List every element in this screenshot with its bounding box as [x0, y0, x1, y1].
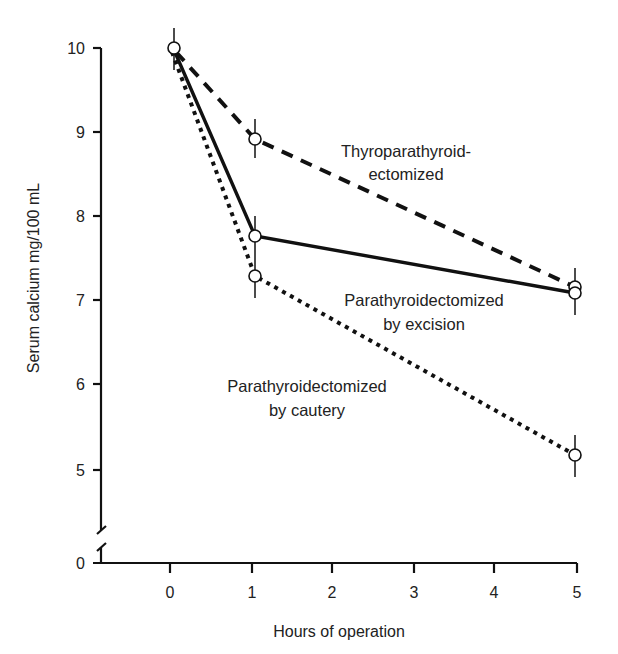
x-tick-labels: 0 1 2 3 4 5: [166, 584, 582, 601]
svg-text:Thyroparathyroid-: Thyroparathyroid-: [341, 142, 471, 160]
data-point: [569, 287, 581, 299]
y-axis: [93, 48, 106, 563]
error-bars: [174, 28, 575, 477]
y-tick-label: 6: [76, 376, 85, 393]
data-point: [249, 230, 261, 242]
data-point: [249, 133, 261, 145]
x-tick-label: 1: [248, 584, 257, 601]
data-point: [168, 42, 180, 54]
annotation-thyroparathyroidectomized: Thyroparathyroid- ectomized: [341, 142, 471, 183]
svg-text:by excision: by excision: [383, 315, 465, 333]
annotation-cautery: Parathyroidectomized by cautery: [227, 377, 387, 419]
data-points: [168, 42, 581, 461]
svg-text:Parathyroidectomized: Parathyroidectomized: [344, 291, 504, 309]
x-tick-label: 2: [328, 584, 337, 601]
x-tick-label: 3: [410, 584, 419, 601]
x-tick-label: 5: [573, 584, 582, 601]
y-tick-label: 10: [67, 40, 85, 57]
data-point: [249, 270, 261, 282]
data-point: [569, 449, 581, 461]
y-tick-label: 5: [76, 462, 85, 479]
x-axis: [93, 563, 577, 573]
annotation-excision: Parathyroidectomized by excision: [344, 291, 504, 333]
y-tick-label: 9: [76, 124, 85, 141]
svg-text:by cautery: by cautery: [269, 401, 346, 419]
y-tick-label: 0: [76, 555, 85, 572]
svg-text:Parathyroidectomized: Parathyroidectomized: [227, 377, 387, 395]
line-chart: 10 9 8 7 6 5 0 0 1 2 3 4 5 Hours of oper…: [0, 0, 618, 654]
svg-text:ectomized: ectomized: [368, 165, 443, 183]
x-tick-label: 0: [166, 584, 175, 601]
x-axis-title: Hours of operation: [273, 623, 405, 640]
y-tick-label: 7: [76, 292, 85, 309]
x-tick-label: 4: [490, 584, 499, 601]
y-axis-title: Serum calcium mg/100 mL: [25, 183, 42, 373]
y-tick-labels: 10 9 8 7 6 5 0: [67, 40, 85, 572]
y-tick-label: 8: [76, 208, 85, 225]
